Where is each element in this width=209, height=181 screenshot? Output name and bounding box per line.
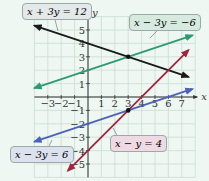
x-tick-label: 5 (152, 98, 158, 109)
y-tick-label: −1 (70, 105, 85, 116)
label-x-minus-y-eq-4: x − y = 4 (110, 135, 167, 152)
x-tick-label: 6 (165, 98, 171, 109)
y-tick-label: −3 (70, 132, 85, 143)
y-tick-label: 1 (79, 79, 85, 90)
label-x-plus-3y-eq-12: x + 3y = 12 (22, 3, 92, 20)
label-x-minus-3y-eq-neg6: x − 3y = −6 (129, 14, 201, 31)
x-tick-label: 1 (98, 98, 104, 109)
intersection-point (126, 108, 131, 113)
callout-pointer (55, 20, 58, 31)
x-tick-label: 2 (112, 98, 118, 109)
x-axis-label: x (201, 91, 207, 102)
callout-pointer (150, 30, 158, 38)
x-tick-label: 7 (179, 98, 185, 109)
y-tick-label: 3 (79, 52, 85, 63)
intersection-point (126, 55, 131, 60)
label-x-minus-3y-eq-6: x − 3y = 6 (10, 146, 74, 163)
y-tick-label: 5 (79, 25, 85, 36)
y-axis-label: y (91, 7, 98, 18)
line-x-plus-3y-eq-12 (34, 26, 188, 77)
